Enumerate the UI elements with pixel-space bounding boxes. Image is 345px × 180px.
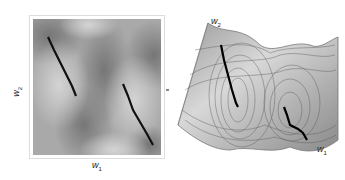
y-axis-label: w2 [11, 87, 23, 97]
heatmap-plot [29, 15, 165, 159]
surface-w1-label: w1 [317, 144, 327, 156]
y-axis-label-text: w [11, 90, 21, 97]
heatmap-panel [29, 15, 165, 159]
x-axis-label-sub: 1 [99, 166, 102, 172]
surface-panel [170, 15, 345, 165]
x-axis-label: w1 [92, 160, 102, 172]
surface-w2-label: w2 [211, 16, 221, 28]
surface-w2-sub: 2 [218, 22, 221, 28]
surface-plot [170, 15, 345, 165]
tick-mark [166, 89, 169, 91]
y-axis-label-sub: 2 [17, 87, 23, 90]
surface-w1-sub: 1 [324, 150, 327, 156]
